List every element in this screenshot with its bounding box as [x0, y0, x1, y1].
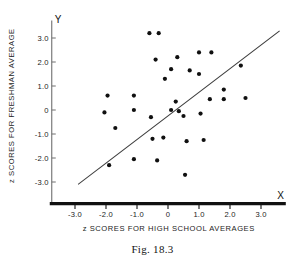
y-axis-tick-label: 2.0	[38, 58, 49, 67]
data-point	[197, 72, 201, 76]
data-point	[222, 88, 226, 92]
x-axis-tick-label: -3.0	[68, 210, 82, 219]
data-point	[198, 112, 202, 116]
scatter-plot-figure: 3.02.01.00-1.0-2.0-3.0-3.0-2.0-1.001.02.…	[0, 0, 305, 265]
data-point	[208, 97, 212, 101]
data-point	[181, 114, 185, 118]
data-point	[113, 126, 117, 130]
x-axis-tick-label: -1.0	[130, 210, 144, 219]
y-axis-tick-label: -3.0	[35, 178, 49, 187]
data-point	[157, 31, 161, 35]
y-axis-tick-label: 0	[44, 106, 48, 115]
data-point	[197, 50, 201, 54]
data-point	[202, 138, 206, 142]
x-axis-tick-label: -2.0	[99, 210, 113, 219]
y-axis-name-label: Y	[55, 14, 62, 25]
x-axis-tick-label: 0	[166, 210, 170, 219]
figure-caption: Fig. 18.3	[0, 243, 305, 255]
data-point	[132, 157, 136, 161]
data-point	[169, 108, 173, 112]
y-axis-tick-label: 3.0	[38, 34, 49, 43]
x-axis-tick-label: 1.0	[193, 210, 204, 219]
data-point	[107, 163, 111, 167]
data-point	[175, 55, 179, 59]
x-axis-name-label: X	[277, 190, 284, 201]
data-point	[149, 115, 153, 119]
data-point	[243, 96, 247, 100]
data-point	[177, 109, 181, 113]
plot-canvas: 3.02.01.00-1.0-2.0-3.0-3.0-2.0-1.001.02.…	[0, 0, 305, 265]
regression-line	[78, 31, 280, 185]
data-point	[150, 137, 154, 141]
y-axis-title: z SCORES FOR FRESHMAN AVERAGE	[7, 28, 16, 183]
data-point	[209, 50, 213, 54]
data-point	[154, 58, 158, 62]
data-point	[147, 31, 151, 35]
data-point	[132, 94, 136, 98]
x-axis-tick-label: 2.0	[224, 210, 235, 219]
data-point	[222, 97, 226, 101]
data-point	[163, 77, 167, 81]
data-point	[105, 94, 109, 98]
data-point	[155, 158, 159, 162]
y-axis-tick-label: 1.0	[38, 82, 49, 91]
data-point	[239, 64, 243, 68]
data-point	[185, 139, 189, 143]
data-point	[169, 67, 173, 71]
data-point	[132, 108, 136, 112]
data-point	[183, 173, 187, 177]
x-axis-title: z SCORES FOR HIGH SCHOOL AVERAGES	[83, 224, 255, 233]
x-axis-tick-label: 3.0	[255, 210, 266, 219]
data-point	[102, 110, 106, 114]
data-point	[161, 136, 165, 140]
y-axis-tick-label: -1.0	[35, 130, 49, 139]
data-point	[174, 100, 178, 104]
data-point	[188, 68, 192, 72]
y-axis-tick-label: -2.0	[35, 154, 49, 163]
